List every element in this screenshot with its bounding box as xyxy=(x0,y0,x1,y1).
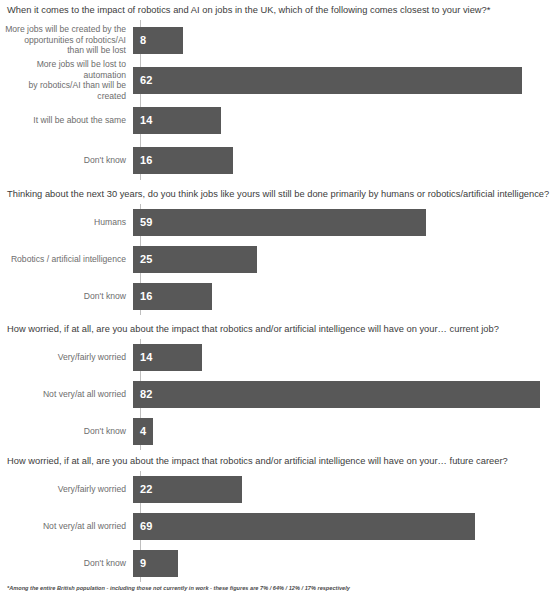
bar: 59 xyxy=(133,209,426,236)
survey-chart-root: When it comes to the impact of robotics … xyxy=(0,0,555,595)
bar-track: 16 xyxy=(133,140,555,180)
bar-value-label: 14 xyxy=(140,352,153,363)
bar-row: Not very/at all worried82 xyxy=(0,376,555,413)
category-label: It will be about the same xyxy=(0,115,133,126)
bar: 16 xyxy=(133,283,212,310)
bar-value-label: 9 xyxy=(140,558,146,569)
question-section-4: How worried, if at all, are you about th… xyxy=(0,455,555,582)
category-label: Humans xyxy=(0,217,133,228)
question-title: Thinking about the next 30 years, do you… xyxy=(0,188,555,200)
bar-track: 59 xyxy=(133,204,555,241)
bar-value-label: 25 xyxy=(140,254,153,265)
bar-row: More jobs will be lost to automation by … xyxy=(0,60,555,100)
bar-row: Don't know16 xyxy=(0,140,555,180)
bar: 25 xyxy=(133,246,257,273)
bar-value-label: 62 xyxy=(140,75,153,86)
question-section-2: Thinking about the next 30 years, do you… xyxy=(0,188,555,315)
bar: 14 xyxy=(133,107,221,134)
bar-track: 16 xyxy=(133,278,555,315)
bar-row: Very/fairly worried22 xyxy=(0,471,555,508)
bar-value-label: 16 xyxy=(140,155,153,166)
bar-value-label: 69 xyxy=(140,521,153,532)
question-title: How worried, if at all, are you about th… xyxy=(0,323,555,335)
plot-area: More jobs will be created by the opportu… xyxy=(0,20,555,180)
category-label: Robotics / artificial intelligence xyxy=(0,254,133,265)
bar-row: It will be about the same14 xyxy=(0,100,555,140)
bar: 9 xyxy=(133,550,178,577)
bar-track: 22 xyxy=(133,471,555,508)
bar-row: Don't know4 xyxy=(0,413,555,450)
bar-value-label: 82 xyxy=(140,389,153,400)
bar-row: More jobs will be created by the opportu… xyxy=(0,20,555,60)
question-section-1: When it comes to the impact of robotics … xyxy=(0,4,555,180)
category-label: More jobs will be lost to automation by … xyxy=(0,59,133,101)
bar: 69 xyxy=(133,513,475,540)
category-label: Very/fairly worried xyxy=(0,484,133,495)
question-title: When it comes to the impact of robotics … xyxy=(0,4,555,16)
bar: 8 xyxy=(133,27,183,54)
category-label: Don't know xyxy=(0,558,133,569)
bar: 62 xyxy=(133,67,522,94)
bar-track: 8 xyxy=(133,20,555,60)
footnote: *Among the entire British population - i… xyxy=(7,585,350,591)
bar-value-label: 22 xyxy=(140,484,153,495)
bar: 82 xyxy=(133,381,540,408)
bar-row: Not very/at all worried69 xyxy=(0,508,555,545)
bar-row: Robotics / artificial intelligence25 xyxy=(0,241,555,278)
category-label: Very/fairly worried xyxy=(0,352,133,363)
category-label: Don't know xyxy=(0,155,133,166)
category-label: More jobs will be created by the opportu… xyxy=(0,24,133,56)
bar-value-label: 14 xyxy=(140,115,153,126)
bar-track: 69 xyxy=(133,508,555,545)
bar-row: Humans59 xyxy=(0,204,555,241)
bar-track: 9 xyxy=(133,545,555,582)
bar: 14 xyxy=(133,344,202,371)
bar-track: 4 xyxy=(133,413,555,450)
plot-area: Very/fairly worried14Not very/at all wor… xyxy=(0,339,555,450)
question-title: How worried, if at all, are you about th… xyxy=(0,455,555,467)
bar: 22 xyxy=(133,476,242,503)
bar-track: 62 xyxy=(133,60,555,100)
bar-track: 25 xyxy=(133,241,555,278)
plot-area: Humans59Robotics / artificial intelligen… xyxy=(0,204,555,315)
bar-value-label: 4 xyxy=(140,426,146,437)
plot-area: Very/fairly worried22Not very/at all wor… xyxy=(0,471,555,582)
bar-value-label: 16 xyxy=(140,291,153,302)
bar-row: Don't know16 xyxy=(0,278,555,315)
category-label: Not very/at all worried xyxy=(0,521,133,532)
category-label: Don't know xyxy=(0,426,133,437)
bar-value-label: 59 xyxy=(140,217,153,228)
bar-row: Don't know9 xyxy=(0,545,555,582)
bar-track: 14 xyxy=(133,100,555,140)
bar-track: 82 xyxy=(133,376,555,413)
bar: 16 xyxy=(133,147,233,174)
category-label: Don't know xyxy=(0,291,133,302)
bar-row: Very/fairly worried14 xyxy=(0,339,555,376)
question-section-3: How worried, if at all, are you about th… xyxy=(0,323,555,450)
bar-track: 14 xyxy=(133,339,555,376)
category-label: Not very/at all worried xyxy=(0,389,133,400)
bar: 4 xyxy=(133,418,153,445)
bar-value-label: 8 xyxy=(140,35,146,46)
